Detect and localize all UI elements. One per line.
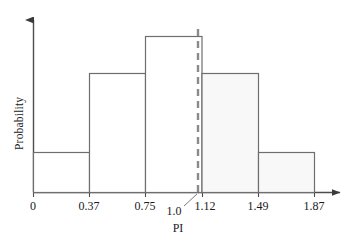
x-tick-label-1: 0.37 bbox=[79, 200, 100, 212]
y-axis-title: Probability bbox=[14, 97, 26, 150]
x-tick-label-2: 0.75 bbox=[135, 200, 156, 212]
x-tick-label-0: 0 bbox=[30, 200, 36, 212]
histogram-bar bbox=[90, 74, 146, 193]
histogram-bar bbox=[34, 153, 90, 193]
threshold-label: 1.0 bbox=[167, 205, 182, 217]
histogram-bar bbox=[146, 37, 203, 193]
histogram-bar bbox=[202, 74, 259, 193]
histogram-bar bbox=[259, 153, 315, 193]
x-tick-label-4: 1.49 bbox=[248, 200, 269, 212]
x-axis-title: PI bbox=[173, 222, 184, 234]
x-tick-label-3: 1.12 bbox=[195, 200, 216, 212]
histogram-figure: Probability 0 0.37 0.75 1.12 1.49 1.87 1… bbox=[0, 0, 357, 242]
x-tick-label-5: 1.87 bbox=[304, 200, 325, 212]
histogram-bars bbox=[34, 37, 315, 193]
